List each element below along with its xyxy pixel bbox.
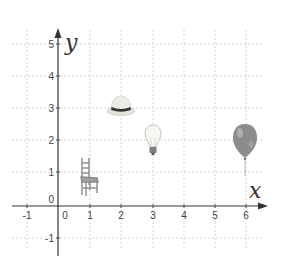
y-tick-label: 4 [48,71,54,82]
balloon-icon [233,124,257,176]
y-tick-label: 2 [48,135,54,146]
x-tick-label: 6 [243,210,249,221]
y-tick-labels: 5 4 3 2 1 0 -1 [45,39,54,244]
x-tick-label: 2 [118,210,124,221]
y-tick-label: -1 [45,233,54,244]
x-tick-label: 4 [181,210,187,221]
hat-icon [107,96,135,116]
x-tick-label: 0 [62,210,68,221]
coordinate-plane: -1 0 1 2 3 4 5 6 5 4 3 2 1 0 -1 y x [0,0,283,267]
x-tick-labels: -1 0 1 2 3 4 5 6 [23,210,250,221]
y-tick-label: 0 [48,194,54,205]
tick-marks [27,44,246,238]
y-tick-label: 1 [48,167,54,178]
x-axis-title: x [249,178,262,203]
light-bulb-icon [145,125,161,155]
x-tick-label: 1 [87,210,93,221]
x-tick-label: 5 [212,210,218,221]
y-axis [55,28,62,256]
x-tick-label: -1 [23,210,32,221]
y-tick-label: 3 [48,103,54,114]
y-axis-title: y [64,30,78,55]
x-tick-label: 3 [150,210,156,221]
y-tick-label: 5 [48,39,54,50]
